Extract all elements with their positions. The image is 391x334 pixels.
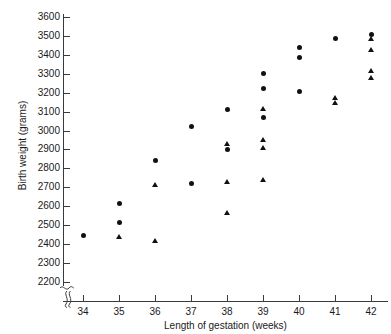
- data-point-circle: [225, 147, 230, 152]
- data-point-circle: [297, 55, 302, 60]
- y-tick-label: 3500: [26, 31, 60, 41]
- y-axis-title: Birth weight (grams): [17, 46, 28, 246]
- data-point-circle: [333, 36, 338, 41]
- data-point-triangle: [332, 100, 338, 105]
- data-point-circle: [297, 45, 302, 50]
- y-axis-break-icon: [58, 282, 80, 308]
- data-point-circle: [189, 124, 194, 129]
- y-tick-label: 3000: [26, 126, 60, 136]
- scatter-chart: 2200230024002500260027002800290030003100…: [0, 0, 391, 334]
- data-point-triangle: [116, 234, 122, 239]
- data-point-triangle: [368, 68, 374, 73]
- data-point-circle: [261, 115, 266, 120]
- y-tick-label: 2200: [26, 277, 60, 287]
- x-axis-line: [63, 301, 388, 302]
- y-axis-tick-labels: 2200230024002500260027002800290030003100…: [22, 0, 60, 334]
- y-tick: [64, 168, 70, 169]
- y-tick: [64, 187, 70, 188]
- data-point-circle: [153, 158, 158, 163]
- y-tick: [64, 17, 70, 18]
- x-tick: [263, 295, 264, 301]
- x-tick-label: 41: [323, 306, 347, 317]
- y-tick: [64, 263, 70, 264]
- x-tick: [83, 295, 84, 301]
- x-tick-label: 35: [107, 306, 131, 317]
- data-point-circle: [117, 201, 122, 206]
- x-tick: [335, 295, 336, 301]
- y-tick: [64, 74, 70, 75]
- y-tick: [64, 36, 70, 37]
- y-tick: [64, 93, 70, 94]
- y-tick: [64, 149, 70, 150]
- data-point-triangle: [152, 182, 158, 187]
- y-tick-label: 2400: [26, 239, 60, 249]
- data-point-circle: [261, 86, 266, 91]
- y-tick: [64, 131, 70, 132]
- data-point-circle: [261, 71, 266, 76]
- x-tick: [227, 295, 228, 301]
- y-tick-label: 3400: [26, 50, 60, 60]
- x-tick-label: 40: [287, 306, 311, 317]
- x-tick: [191, 295, 192, 301]
- data-point-circle: [189, 181, 194, 186]
- x-tick-label: 38: [215, 306, 239, 317]
- data-point-circle: [225, 107, 230, 112]
- x-tick: [299, 295, 300, 301]
- y-tick-label: 3600: [26, 12, 60, 22]
- data-point-triangle: [152, 238, 158, 243]
- data-point-triangle: [224, 179, 230, 184]
- y-tick-label: 2800: [26, 163, 60, 173]
- data-point-circle: [297, 89, 302, 94]
- y-tick: [64, 206, 70, 207]
- y-tick-label: 2900: [26, 144, 60, 154]
- data-point-circle: [117, 220, 122, 225]
- x-axis-title: Length of gestation (weeks): [63, 320, 388, 331]
- y-tick-label: 2600: [26, 201, 60, 211]
- data-point-triangle: [260, 145, 266, 150]
- x-tick-label: 39: [251, 306, 275, 317]
- x-tick: [371, 295, 372, 301]
- y-tick-label: 3100: [26, 107, 60, 117]
- data-point-triangle: [368, 36, 374, 41]
- data-point-triangle: [368, 47, 374, 52]
- x-tick-label: 42: [359, 306, 383, 317]
- data-point-triangle: [260, 106, 266, 111]
- y-tick: [64, 55, 70, 56]
- y-tick-label: 2300: [26, 258, 60, 268]
- x-tick-label: 37: [179, 306, 203, 317]
- y-tick: [64, 225, 70, 226]
- data-point-triangle: [368, 75, 374, 80]
- data-point-circle: [81, 233, 86, 238]
- x-tick-label: 36: [143, 306, 167, 317]
- y-tick: [64, 244, 70, 245]
- data-point-triangle: [260, 137, 266, 142]
- x-tick: [119, 295, 120, 301]
- y-tick-label: 3300: [26, 69, 60, 79]
- data-point-triangle: [224, 141, 230, 146]
- y-tick: [64, 112, 70, 113]
- y-tick-label: 2700: [26, 182, 60, 192]
- data-point-triangle: [332, 95, 338, 100]
- x-tick: [155, 295, 156, 301]
- data-point-triangle: [260, 177, 266, 182]
- y-tick-label: 3200: [26, 88, 60, 98]
- data-point-triangle: [224, 210, 230, 215]
- y-tick-label: 2500: [26, 220, 60, 230]
